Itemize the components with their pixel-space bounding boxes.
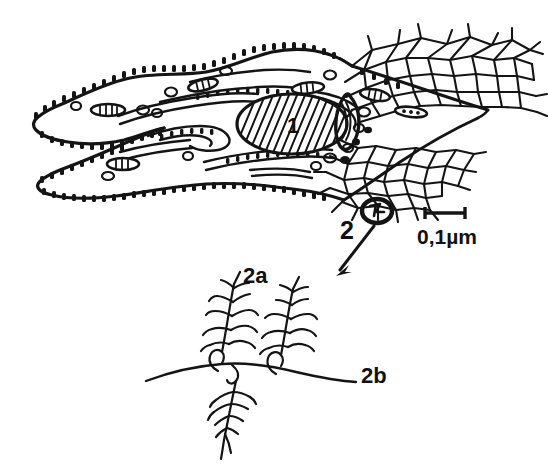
figure-container: 0,1µm xyxy=(0,0,548,466)
label-nucleus: 1 xyxy=(287,113,299,138)
label-backbone: 2b xyxy=(361,363,387,388)
scientific-illustration: 0,1µm xyxy=(0,0,548,466)
label-branch-upper: 2a xyxy=(243,263,268,288)
scale-bar-label: 0,1µm xyxy=(417,225,477,248)
label-surface-unit: 2 xyxy=(340,216,354,244)
